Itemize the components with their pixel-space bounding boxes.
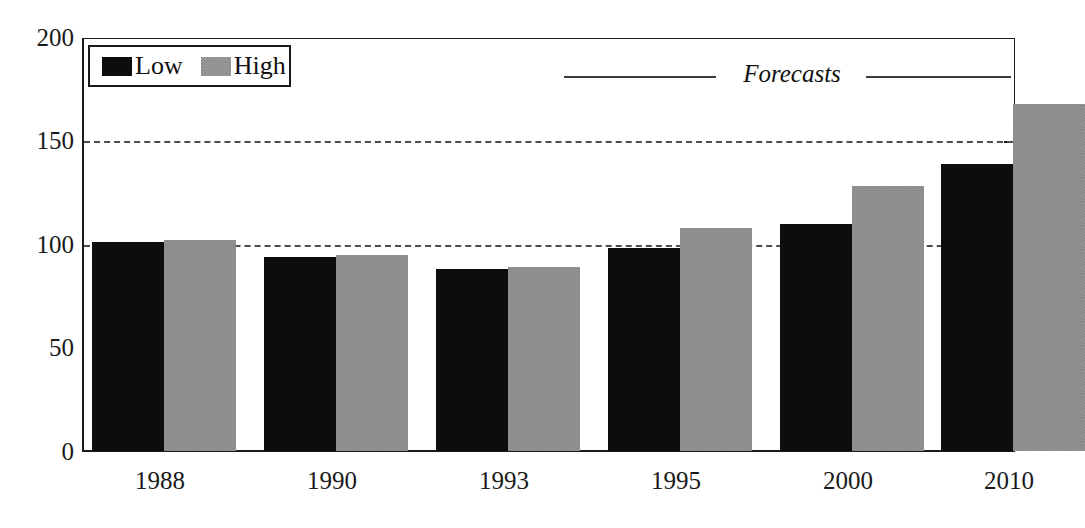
bar-1990-low[interactable] [264,257,336,451]
bar-2010-low[interactable] [941,164,1013,451]
bar-1995-low[interactable] [608,248,680,451]
y-axis-tick-label: 0 [0,439,74,464]
x-axis-label-2010: 2010 [933,468,1085,493]
legend-label-high: High [234,53,286,79]
x-axis-label-1995: 1995 [600,468,752,493]
bar-2000-low[interactable] [780,224,852,451]
y-axis-tick-label: 200 [0,25,74,50]
bar-1988-low[interactable] [92,242,164,451]
legend-item-low: Low [102,53,183,79]
bar-1993-low[interactable] [436,269,508,451]
x-axis-label-2000: 2000 [772,468,924,493]
x-axis-label-1990: 1990 [256,468,408,493]
bars-layer [84,38,1013,451]
forecast-leader-line-left [564,76,716,78]
bar-1993-high[interactable] [508,267,580,451]
y-axis-tick-label: 150 [0,128,74,153]
bar-2000-high[interactable] [852,186,924,451]
legend-swatch-high-icon [201,57,231,76]
y-axis-tick-label: 50 [0,335,74,360]
bar-1990-high[interactable] [336,255,408,451]
legend-swatch-low-icon [102,57,132,76]
x-axis-label-1988: 1988 [84,468,236,493]
bar-1995-high[interactable] [680,228,752,451]
bar-2010-high[interactable] [1013,104,1085,451]
forecast-leader-line-right [866,76,1011,78]
legend-item-high: High [201,53,286,79]
legend: Low High [88,45,291,87]
forecast-annotation-label: Forecasts [726,61,858,86]
x-axis-label-1993: 1993 [428,468,580,493]
y-axis-tick-label: 100 [0,232,74,257]
legend-label-low: Low [135,53,183,79]
bar-1988-high[interactable] [164,240,236,451]
